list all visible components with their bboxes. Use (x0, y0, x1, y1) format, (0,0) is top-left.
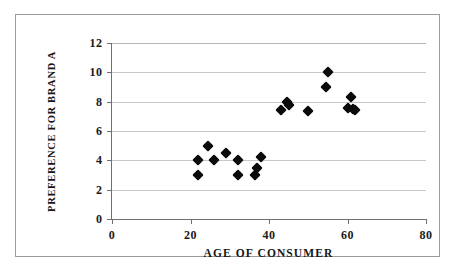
y-tick-label-2: 2 (96, 182, 103, 197)
gridline-y-4 (112, 160, 426, 161)
data-point (255, 152, 266, 163)
gridline-y-6 (112, 131, 426, 132)
y-tick-label-4: 4 (96, 153, 103, 168)
data-point (220, 147, 231, 158)
plot-area: 024681012020406080 (111, 43, 426, 220)
data-point (202, 140, 213, 151)
x-tick-label-0: 0 (109, 228, 116, 243)
y-tick-10 (107, 72, 112, 73)
data-point (193, 169, 204, 180)
x-tick-80 (426, 219, 427, 224)
y-tick-12 (107, 43, 112, 44)
y-tick-2 (107, 190, 112, 191)
data-point (232, 169, 243, 180)
gridline-y-12 (112, 43, 426, 44)
x-axis-title: AGE OF CONSUMER (111, 247, 426, 259)
x-tick-label-60: 60 (341, 228, 354, 243)
x-tick-label-40: 40 (263, 228, 276, 243)
data-point (208, 155, 219, 166)
x-tick-label-20: 20 (184, 228, 197, 243)
x-tick-0 (112, 219, 113, 224)
y-tick-label-0: 0 (96, 212, 103, 227)
scatter-plot-figure: PREFERENCE FOR BRAND A 02468101202040608… (0, 0, 454, 273)
y-tick-label-8: 8 (96, 94, 103, 109)
data-point (303, 106, 314, 117)
y-tick-label-12: 12 (90, 36, 103, 51)
gridline-y-2 (112, 190, 426, 191)
y-tick-8 (107, 102, 112, 103)
y-tick-label-10: 10 (90, 65, 103, 80)
data-point (322, 67, 333, 78)
y-axis-title: PREFERENCE FOR BRAND A (43, 43, 59, 220)
x-tick-label-80: 80 (420, 228, 433, 243)
x-tick-20 (191, 219, 192, 224)
y-tick-6 (107, 131, 112, 132)
data-point (320, 81, 331, 92)
x-tick-40 (269, 219, 270, 224)
gridline-y-8 (112, 102, 426, 103)
chart-outer-frame: PREFERENCE FOR BRAND A 02468101202040608… (15, 14, 440, 257)
gridline-y-10 (112, 72, 426, 73)
y-axis-title-text: PREFERENCE FOR BRAND A (46, 51, 57, 212)
y-tick-label-6: 6 (96, 124, 103, 139)
data-point (193, 155, 204, 166)
data-point (232, 155, 243, 166)
x-tick-60 (348, 219, 349, 224)
y-tick-4 (107, 160, 112, 161)
